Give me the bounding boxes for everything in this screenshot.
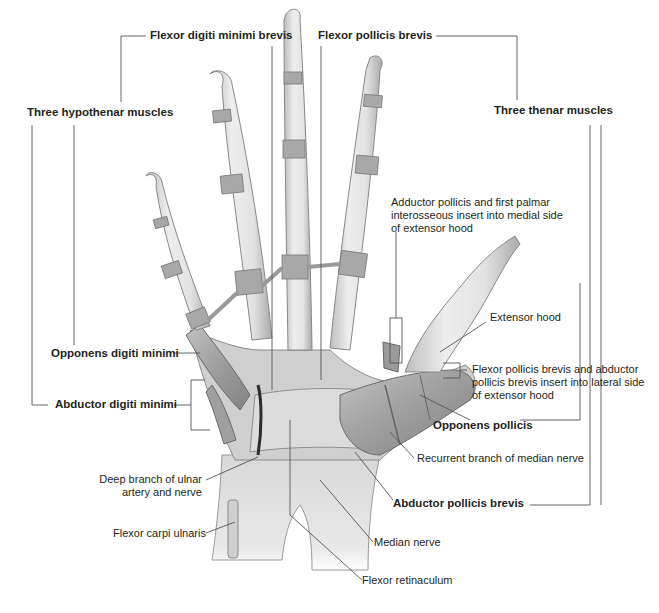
label-flexor-carpi-ulnaris: Flexor carpi ulnaris	[113, 527, 206, 540]
label-recurrent-branch: Recurrent branch of median nerve	[417, 452, 584, 465]
label-abductor-pollicis-brevis: Abductor pollicis brevis	[393, 497, 524, 510]
little-finger	[146, 173, 210, 330]
wrist	[212, 455, 380, 570]
hand-illustration	[0, 0, 659, 613]
label-flexor-digiti-minimi-brevis: Flexor digiti minimi brevis	[150, 29, 293, 42]
anatomy-figure: Flexor digiti minimi brevis Flexor polli…	[0, 0, 659, 613]
adductor-insert	[383, 342, 400, 372]
middle-finger	[284, 9, 312, 350]
label-three-thenar-muscles: Three thenar muscles	[494, 104, 613, 117]
thumb	[383, 236, 520, 372]
label-adductor-pollicis-insert: Adductor pollicis and first palmar inter…	[391, 196, 566, 235]
label-deep-branch-ulnar: Deep branch of ulnar artery and nerve	[90, 473, 202, 499]
label-median-nerve: Median nerve	[374, 536, 441, 549]
label-opponens-digiti-minimi: Opponens digiti minimi	[51, 347, 179, 360]
flexor-carpi-ulnaris-tendon	[228, 500, 238, 558]
label-opponens-pollicis: Opponens pollicis	[433, 419, 533, 432]
label-extensor-hood: Extensor hood	[490, 311, 561, 324]
label-abductor-digiti-minimi: Abductor digiti minimi	[55, 398, 177, 411]
label-three-hypothenar-muscles: Three hypothenar muscles	[27, 106, 173, 119]
label-flexor-pollicis-brevis: Flexor pollicis brevis	[318, 29, 432, 42]
label-fpb-apb-insert: Flexor pollicis brevis and abductor poll…	[472, 363, 652, 402]
fingers	[146, 9, 382, 350]
label-flexor-retinaculum: Flexor retinaculum	[362, 574, 452, 587]
